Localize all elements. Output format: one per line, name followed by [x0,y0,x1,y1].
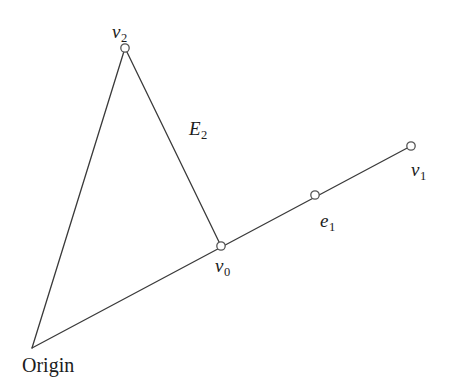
vertex-label-v0-subscript: 0 [223,265,230,279]
edge-origin-to-v2 [32,48,125,348]
vertex-label-v1-subscript: 1 [419,169,426,183]
edge-label-e1: e1 [320,211,335,233]
markers-group [121,44,415,250]
vertex-label-origin: Origin [22,355,74,375]
edge-label-E2-base: E [189,118,201,139]
vertex-label-origin-base: Origin [22,354,74,376]
vertex-marker-v2 [121,44,129,52]
vertex-label-v2-subscript: 2 [120,31,127,45]
diagram-svg [0,0,457,391]
edges-group [32,48,411,348]
vertex-marker-v1 [407,142,415,150]
vertex-label-v2: v2 [112,22,127,44]
figure-canvas: v2 E2 v1 e1 v0 Origin [0,0,457,391]
vertex-label-v1: v1 [411,160,426,182]
edge-label-E2: E2 [189,119,207,141]
vertex-label-v0: v0 [215,256,230,278]
edge-label-E2-subscript: 2 [201,128,208,142]
edge-v2-to-v0 [125,48,221,246]
vertex-marker-v0 [217,242,225,250]
edge-label-e1-subscript: 1 [328,220,335,234]
vertex-marker-e1 [311,191,319,199]
